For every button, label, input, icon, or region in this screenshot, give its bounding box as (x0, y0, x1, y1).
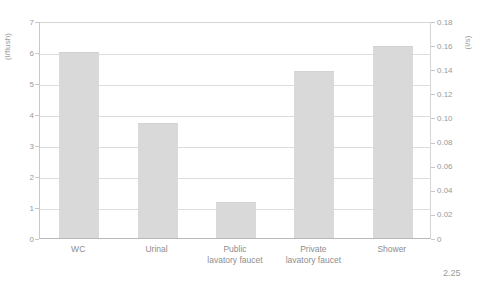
y-tick-mark-left (35, 239, 39, 240)
x-axis-category-labels: WCUrinalPublic lavatory faucetPrivate la… (39, 244, 431, 278)
figure-number: 2.25 (443, 268, 461, 278)
y-tick-mark-right (431, 118, 435, 119)
y-tick-mark-right (431, 191, 435, 192)
y-tick-mark-right (431, 94, 435, 95)
y-tick-label-right: 0.14 (431, 66, 465, 75)
y-tick-mark-right (431, 143, 435, 144)
y-tick-label-right: 0.10 (431, 114, 465, 123)
y-tick-mark-right (431, 167, 435, 168)
x-tick-label: Public lavatory faucet (196, 244, 274, 266)
x-tick-label: Shower (353, 244, 431, 255)
figure-container: (l/flush) (l/s) 01234567 00.020.040.060.… (0, 0, 482, 288)
y-tick-label-right: 0.18 (431, 18, 465, 27)
y-tick-label-right: 0.02 (431, 210, 465, 219)
x-tick-label: WC (39, 244, 117, 255)
y-tick-label-right: 0.04 (431, 186, 465, 195)
y-tick-label-right: 0.12 (431, 90, 465, 99)
y-axis-left: 01234567 (0, 22, 39, 239)
bar (373, 46, 413, 238)
y-tick-mark-right (431, 215, 435, 216)
plot-area (39, 22, 431, 239)
bar (294, 71, 334, 238)
bar (138, 123, 178, 238)
x-tick-label: Urinal (117, 244, 195, 255)
x-tick-label: Private lavatory faucet (274, 244, 352, 266)
bar (216, 202, 256, 238)
y-tick-label-right: 0.06 (431, 162, 465, 171)
y-tick-label-right: 0.16 (431, 42, 465, 51)
y-tick-mark-right (431, 70, 435, 71)
y-tick-mark-right (431, 22, 435, 23)
y-tick-label-right: 0.08 (431, 138, 465, 147)
y-tick-mark-right (431, 239, 435, 240)
y-tick-mark-right (431, 46, 435, 47)
y-axis-right: 00.020.040.060.080.100.120.140.160.18 (431, 22, 482, 239)
y-tick-label-right: 0 (431, 235, 465, 244)
bar (59, 52, 99, 238)
